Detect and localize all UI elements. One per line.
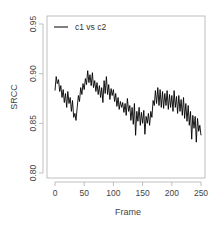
y-tick-label: 0.85 [28, 115, 38, 132]
x-tick-label: 150 [136, 188, 150, 198]
y-axis: 0.800.850.900.95 [28, 15, 43, 181]
legend: c1 vs c2 [54, 22, 106, 32]
x-tick-label: 0 [53, 188, 58, 198]
x-tick-label: 50 [79, 188, 89, 198]
chart: 050100150200250 0.800.850.900.95 c1 vs c… [0, 0, 221, 228]
y-axis-title: SRCC [9, 84, 19, 110]
y-tick-label: 0.80 [28, 164, 38, 181]
x-axis: 050100150200250 [53, 182, 209, 198]
y-tick-label: 0.90 [28, 65, 38, 82]
legend-label: c1 vs c2 [75, 22, 106, 32]
x-tick-label: 250 [194, 188, 208, 198]
plot-box [47, 16, 205, 178]
x-tick-label: 100 [106, 188, 120, 198]
x-axis-title: Frame [115, 207, 141, 217]
y-tick-label: 0.95 [28, 15, 38, 32]
x-tick-label: 200 [165, 188, 179, 198]
series-line-c1-vs-c2 [55, 71, 201, 143]
